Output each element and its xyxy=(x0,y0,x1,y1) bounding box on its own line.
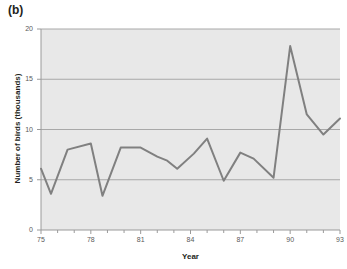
y-tick-label-0: 0 xyxy=(11,226,33,233)
x-tick-label-84: 84 xyxy=(179,236,203,243)
x-tick-label-93: 93 xyxy=(328,236,347,243)
line-chart-plot xyxy=(0,0,347,269)
x-tick-label-87: 87 xyxy=(228,236,252,243)
x-tick-label-78: 78 xyxy=(79,236,103,243)
y-tick-label-20: 20 xyxy=(11,25,33,32)
x-axis-ticks xyxy=(41,230,340,234)
y-axis-ticks xyxy=(37,29,41,230)
figure-panel-b: (b) Number of birds (thousands) 05101520… xyxy=(0,0,347,269)
x-tick-label-81: 81 xyxy=(129,236,153,243)
x-tick-label-90: 90 xyxy=(278,236,302,243)
y-tick-label-5: 5 xyxy=(11,176,33,183)
x-axis-title: Year xyxy=(41,252,340,261)
x-tick-label-75: 75 xyxy=(29,236,53,243)
y-tick-label-10: 10 xyxy=(11,126,33,133)
y-tick-label-15: 15 xyxy=(11,75,33,82)
